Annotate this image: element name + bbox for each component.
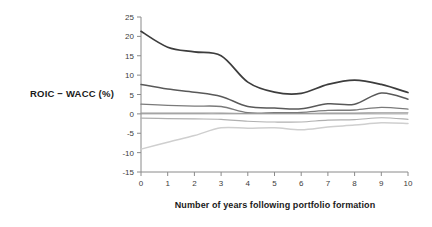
x-tick-label: 2 xyxy=(192,179,197,188)
x-tick-label: 7 xyxy=(326,179,331,188)
chart-figure: ROIC − WACC (%) Number of years followin… xyxy=(0,0,432,227)
series-line xyxy=(141,123,408,149)
x-axis-tick-group: 012345678910 xyxy=(139,172,413,188)
x-tick-label: 1 xyxy=(165,179,170,188)
x-tick-label: 6 xyxy=(299,179,304,188)
y-tick-label: 5 xyxy=(130,91,135,100)
y-tick-label: -5 xyxy=(127,129,135,138)
x-tick-label: 8 xyxy=(352,179,357,188)
y-tick-label: 10 xyxy=(125,71,134,80)
y-tick-label: 20 xyxy=(125,32,134,41)
y-tick-label: -10 xyxy=(122,149,134,158)
line-chart-plot: -15-10-50510152025 012345678910 xyxy=(0,0,432,227)
x-tick-label: 4 xyxy=(246,179,251,188)
series-line xyxy=(141,31,408,94)
y-axis-title: ROIC − WACC (%) xyxy=(16,88,128,99)
y-tick-label: 0 xyxy=(130,110,135,119)
y-tick-label: -15 xyxy=(122,168,134,177)
x-tick-label: 9 xyxy=(379,179,384,188)
x-tick-label: 10 xyxy=(404,179,413,188)
x-axis-title: Number of years following portfolio form… xyxy=(141,200,409,210)
series-line xyxy=(141,118,408,122)
y-tick-label: 15 xyxy=(125,52,134,61)
x-tick-label: 3 xyxy=(219,179,224,188)
series-group xyxy=(141,31,408,149)
x-tick-label: 5 xyxy=(272,179,277,188)
y-tick-label: 25 xyxy=(125,13,134,22)
x-tick-label: 0 xyxy=(139,179,144,188)
